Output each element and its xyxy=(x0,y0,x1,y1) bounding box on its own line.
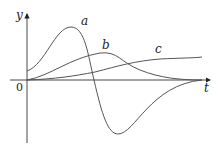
chart: y 0 t a b c xyxy=(0,0,218,154)
origin-label: 0 xyxy=(16,81,23,94)
t-axis-label: t xyxy=(204,81,209,95)
y-axis-label: y xyxy=(15,8,23,22)
curve-a xyxy=(27,27,202,134)
curve-c xyxy=(27,57,202,80)
curve-b-label: b xyxy=(102,38,110,52)
curve-c-label: c xyxy=(155,42,162,56)
curve-a-label: a xyxy=(81,14,88,28)
curve-b xyxy=(27,53,202,80)
